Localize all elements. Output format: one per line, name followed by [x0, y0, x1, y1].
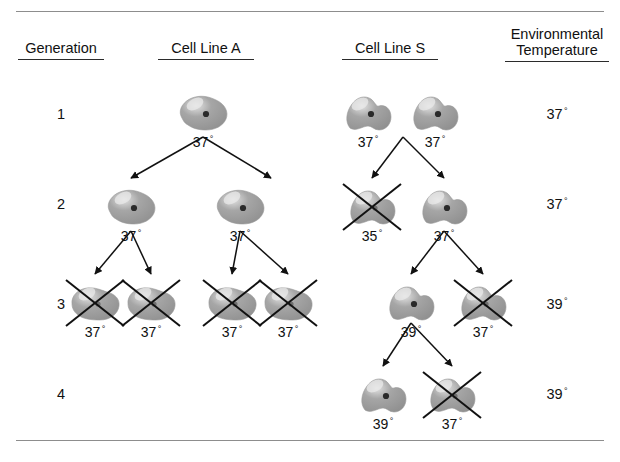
degree-symbol: ° — [490, 324, 494, 334]
cell-temp-label: 37° — [448, 324, 518, 340]
env-temp-generation-1: 37° — [522, 106, 592, 122]
column-header-underline — [18, 59, 104, 60]
column-header-env-temp: EnvironmentalTemperature — [505, 26, 609, 62]
cell-temp-label: 39° — [376, 324, 446, 340]
degree-symbol: ° — [158, 324, 162, 334]
cell-s-g3-c1-alive: 39° — [383, 282, 439, 324]
generation-label-2: 2 — [41, 196, 81, 212]
env-temp-generation-2: 37° — [522, 196, 592, 212]
cell-body — [355, 374, 411, 416]
cell-s-g4-c1-alive: 39° — [355, 374, 411, 416]
top-divider-rule — [16, 11, 604, 12]
env-temp-generation-4: 39° — [522, 386, 592, 402]
cell-temp-label: 37° — [168, 134, 238, 150]
cell-nucleus — [444, 205, 450, 211]
cell-temp-label: 37° — [205, 228, 275, 244]
column-header-underline — [158, 59, 254, 60]
column-header-label: Cell Line S — [355, 40, 425, 56]
degree-symbol: ° — [564, 296, 568, 306]
column-header-label: EnvironmentalTemperature — [511, 26, 604, 58]
cell-temp-label: 37° — [116, 324, 186, 340]
degree-symbol: ° — [442, 134, 446, 144]
cell-lineage-figure: GenerationCell Line ACell Line SEnvironm… — [0, 0, 620, 462]
degree-symbol: ° — [210, 134, 214, 144]
cell-s-g1-c1-alive: 37° — [340, 92, 396, 134]
cell-nucleus — [383, 393, 389, 399]
cell-body — [103, 186, 159, 228]
degree-symbol: ° — [459, 416, 463, 426]
column-header-cell-line-a: Cell Line A — [158, 40, 254, 60]
column-header-label: Generation — [25, 40, 97, 56]
cell-temp-label: 37° — [253, 324, 323, 340]
cell-death-x-icon — [419, 368, 485, 422]
cell-a-g3-c2-dead: 37° — [123, 282, 179, 324]
cell-s-g2-c1-dead: 35° — [344, 186, 400, 228]
cell-nucleus — [131, 205, 137, 211]
cell-temp-label: 37° — [333, 134, 403, 150]
cell-body — [340, 92, 396, 134]
cell-body — [416, 186, 472, 228]
degree-symbol: ° — [564, 386, 568, 396]
bottom-divider-rule — [16, 440, 604, 441]
degree-symbol: ° — [138, 228, 142, 238]
cell-body — [212, 186, 268, 228]
degree-symbol: ° — [451, 228, 455, 238]
cell-nucleus — [203, 111, 209, 117]
cell-a-g1-c1-alive: 37° — [175, 92, 231, 134]
degree-symbol: ° — [564, 106, 568, 116]
cell-temp-label: 37° — [96, 228, 166, 244]
column-header-underline — [342, 59, 438, 60]
generation-label-4: 4 — [41, 386, 81, 402]
degree-symbol: ° — [102, 324, 106, 334]
cell-a-g2-c1-alive: 37° — [103, 186, 159, 228]
degree-symbol: ° — [295, 324, 299, 334]
degree-symbol: ° — [247, 228, 251, 238]
env-temp-generation-3: 39° — [522, 296, 592, 312]
degree-symbol: ° — [239, 324, 243, 334]
column-header-underline — [505, 61, 609, 62]
cell-body — [175, 92, 231, 134]
cell-a-g3-c1-dead: 37° — [67, 282, 123, 324]
cell-s-g3-c2-dead: 37° — [455, 282, 511, 324]
cell-nucleus — [411, 301, 417, 307]
cell-temp-label: 37° — [409, 228, 479, 244]
cell-a-g3-c4-dead: 37° — [260, 282, 316, 324]
cell-body — [383, 282, 439, 324]
degree-symbol: ° — [564, 196, 568, 206]
cell-death-x-icon — [118, 276, 184, 330]
cell-temp-label: 35° — [337, 228, 407, 244]
cell-a-g3-c3-dead: 37° — [204, 282, 260, 324]
cell-s-g1-c2-alive: 37° — [407, 92, 463, 134]
degree-symbol: ° — [418, 324, 422, 334]
cell-nucleus — [240, 205, 246, 211]
degree-symbol: ° — [375, 134, 379, 144]
degree-symbol: ° — [390, 416, 394, 426]
cell-a-g2-c2-alive: 37° — [212, 186, 268, 228]
cell-s-g2-c2-alive: 37° — [416, 186, 472, 228]
cell-death-x-icon — [450, 276, 516, 330]
cell-temp-label: 39° — [348, 416, 418, 432]
generation-label-1: 1 — [41, 106, 81, 122]
column-header-label: Cell Line A — [171, 40, 240, 56]
column-header-generation: Generation — [18, 40, 104, 60]
cell-temp-label: 37° — [400, 134, 470, 150]
cell-death-x-icon — [339, 180, 405, 234]
cell-s-g4-c2-dead: 37° — [424, 374, 480, 416]
degree-symbol: ° — [379, 228, 383, 238]
cell-nucleus — [368, 111, 374, 117]
column-header-cell-line-s: Cell Line S — [342, 40, 438, 60]
cell-temp-label: 37° — [417, 416, 487, 432]
cell-body — [407, 92, 463, 134]
cell-nucleus — [435, 111, 441, 117]
cell-death-x-icon — [255, 276, 321, 330]
